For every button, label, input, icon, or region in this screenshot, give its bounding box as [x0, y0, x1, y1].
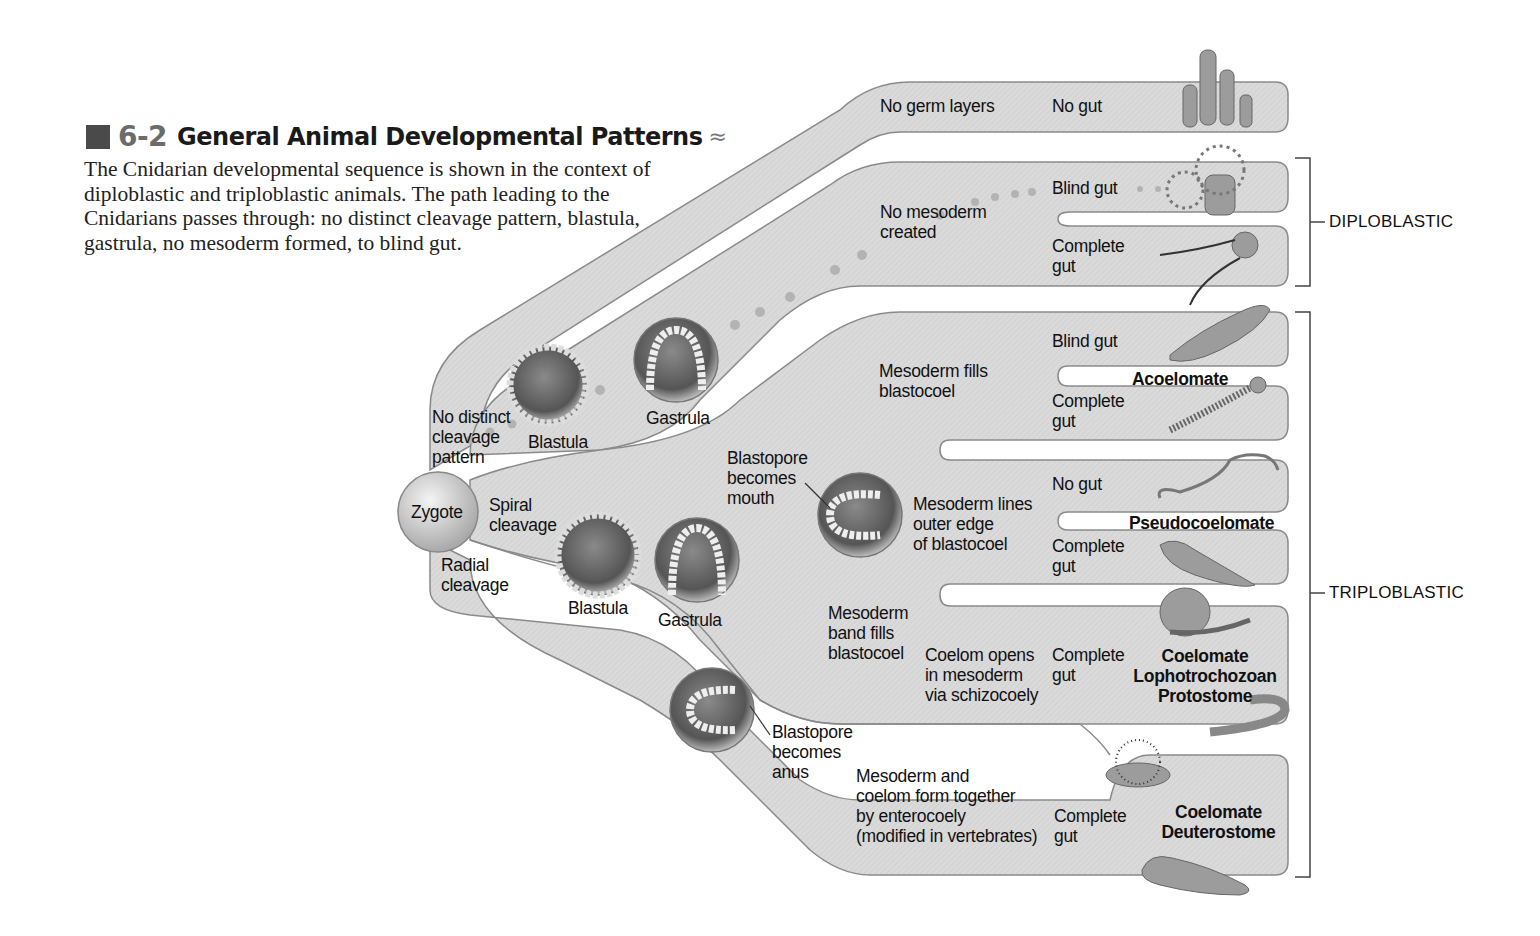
label-line: No mesoderm: [880, 202, 987, 222]
label-line: by enterocoely: [856, 806, 1037, 826]
protostome-gut-label: Complete gut: [1052, 645, 1125, 685]
label-line: in mesoderm: [925, 665, 1038, 685]
schizocoely-label: Coelom opens in mesoderm via schizocoely: [925, 645, 1038, 705]
label-line: via schizocoely: [925, 685, 1038, 705]
label-line: pattern: [432, 447, 510, 467]
label-line: gut: [1052, 256, 1125, 276]
label-line: gut: [1052, 411, 1125, 431]
acoelomate-blind-gut-label: Blind gut: [1052, 331, 1117, 351]
label-line: gut: [1054, 826, 1127, 846]
zygote-label: Zygote: [411, 502, 463, 522]
label-line: Blastopore: [772, 722, 853, 742]
label-line: coelom form together: [856, 786, 1037, 806]
enterocoely-label: Mesoderm and coelom form together by ent…: [856, 766, 1037, 846]
label-line: Complete: [1052, 391, 1125, 411]
bracket-lines: [1295, 158, 1325, 877]
label-line: becomes: [772, 742, 853, 762]
label-line: Coelomate: [1156, 802, 1281, 822]
label-line: Protostome: [1130, 686, 1280, 706]
label-line: Mesoderm: [828, 603, 908, 623]
label-line: (modified in vertebrates): [856, 826, 1037, 846]
label-line: outer edge: [913, 514, 1032, 534]
no-distinct-cleavage-label: No distinct cleavage pattern: [432, 407, 510, 467]
blastula-top-label: Blastula: [528, 432, 588, 452]
label-line: anus: [772, 762, 853, 782]
label-line: Mesoderm lines: [913, 494, 1032, 514]
no-mesoderm-label: No mesoderm created: [880, 202, 987, 242]
label-line: Complete: [1052, 236, 1125, 256]
acoelomate-complete-gut-label: Complete gut: [1052, 391, 1125, 431]
label-line: gut: [1052, 665, 1125, 685]
pseudo-complete-gut-label: Complete gut: [1052, 536, 1125, 576]
blastula-bottom-label: Blastula: [568, 598, 628, 618]
label-line: becomes: [727, 468, 808, 488]
complete-gut-label: Complete gut: [1052, 236, 1125, 276]
radial-cleavage-label: Radial cleavage: [441, 555, 509, 595]
mesoderm-band-label: Mesoderm band fills blastocoel: [828, 603, 908, 663]
label-line: Blastopore: [727, 448, 808, 468]
blastopore-anus-label: Blastopore becomes anus: [772, 722, 853, 782]
label-line: gut: [1052, 556, 1125, 576]
protostome-group-label: Coelomate Lophotrochozoan Protostome: [1130, 646, 1280, 706]
label-line: cleavage: [489, 515, 557, 535]
triploblastic-label: TRIPLOBLASTIC: [1329, 583, 1464, 603]
deuterostome-group-label: Coelomate Deuterostome: [1156, 802, 1281, 842]
label-line: Coelomate: [1130, 646, 1280, 666]
blastopore-mouth-label: Blastopore becomes mouth: [727, 448, 808, 508]
label-line: blastocoel: [828, 643, 908, 663]
no-gut-label: No gut: [1052, 96, 1102, 116]
diploblastic-label: DIPLOBLASTIC: [1329, 212, 1453, 232]
label-line: Mesoderm fills: [879, 361, 988, 381]
label-line: of blastocoel: [913, 534, 1032, 554]
mesoderm-fills-label: Mesoderm fills blastocoel: [879, 361, 988, 401]
label-line: Radial: [441, 555, 509, 575]
label-line: blastocoel: [879, 381, 988, 401]
label-line: created: [880, 222, 987, 242]
label-line: Mesoderm and: [856, 766, 1037, 786]
label-line: cleavage: [441, 575, 509, 595]
deuterostome-gut-label: Complete gut: [1054, 806, 1127, 846]
blind-gut-label: Blind gut: [1052, 178, 1117, 198]
pseudocoelomate-group-label: Pseudocoelomate: [1129, 513, 1274, 533]
label-line: Complete: [1052, 536, 1125, 556]
label-line: Complete: [1054, 806, 1127, 826]
spiral-cleavage-label: Spiral cleavage: [489, 495, 557, 535]
label-line: No distinct: [432, 407, 510, 427]
label-line: mouth: [727, 488, 808, 508]
label-line: Lophotrochozoan: [1130, 666, 1280, 686]
label-line: Spiral: [489, 495, 557, 515]
no-germ-layers-label: No germ layers: [880, 96, 994, 116]
label-line: band fills: [828, 623, 908, 643]
label-line: Deuterostome: [1156, 822, 1281, 842]
label-line: Complete: [1052, 645, 1125, 665]
gastrula-bottom-label: Gastrula: [658, 610, 722, 630]
acoelomate-group-label: Acoelomate: [1132, 369, 1228, 389]
label-line: cleavage: [432, 427, 510, 447]
pseudo-no-gut-label: No gut: [1052, 474, 1102, 494]
gastrula-top-label: Gastrula: [646, 408, 710, 428]
mesoderm-lines-label: Mesoderm lines outer edge of blastocoel: [913, 494, 1032, 554]
label-line: Coelom opens: [925, 645, 1038, 665]
